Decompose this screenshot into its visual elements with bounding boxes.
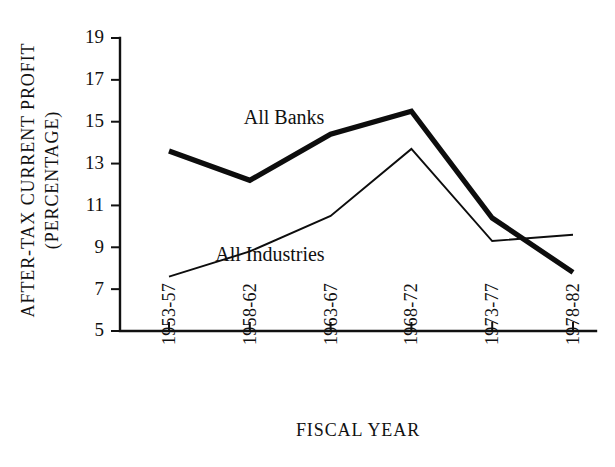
series-annotations: All BanksAll Industries	[215, 106, 325, 265]
y-tick-label: 15	[85, 110, 104, 131]
y-tick-labels: 1917151311975	[85, 26, 104, 340]
x-tick-label: 1958-62	[240, 283, 260, 345]
x-tick-labels: 1953-571958-621963-671968-721973-771978-…	[159, 283, 583, 345]
x-tick-label: 1968-72	[401, 283, 421, 345]
x-tick-label: 1963-67	[321, 283, 341, 345]
y-tick-label: 5	[95, 319, 105, 340]
y-tick-label: 7	[95, 278, 105, 299]
series-label-all-banks: All Banks	[244, 106, 325, 128]
y-tick-label: 13	[85, 152, 104, 173]
y-axis-title-line-2: (PERCENTAGE)	[42, 111, 63, 249]
y-tick-label: 19	[85, 26, 104, 47]
y-axis-title-line-1: AFTER-TAX CURRENT PROFIT	[18, 43, 38, 318]
y-tick-label: 17	[85, 68, 104, 89]
x-tick-label: 1978-82	[563, 283, 583, 345]
x-tick-marks	[169, 322, 573, 331]
axis-lines	[120, 38, 596, 331]
line-chart: 1917151311975 1953-571958-621963-671968-…	[0, 0, 615, 467]
x-axis: 1953-571958-621963-671968-721973-771978-…	[159, 283, 583, 345]
y-tick-label: 9	[95, 236, 105, 257]
axis-titles: FISCAL YEAR AFTER-TAX CURRENT PROFIT (PE…	[18, 43, 420, 440]
x-tick-label: 1953-57	[159, 283, 179, 345]
y-tick-label: 11	[86, 194, 104, 215]
chart-figure: 1917151311975 1953-571958-621963-671968-…	[0, 0, 615, 467]
y-tick-marks	[111, 38, 120, 331]
x-tick-label: 1973-77	[482, 283, 502, 345]
x-axis-title: FISCAL YEAR	[296, 420, 420, 440]
series-label-all-industries: All Industries	[215, 243, 325, 265]
